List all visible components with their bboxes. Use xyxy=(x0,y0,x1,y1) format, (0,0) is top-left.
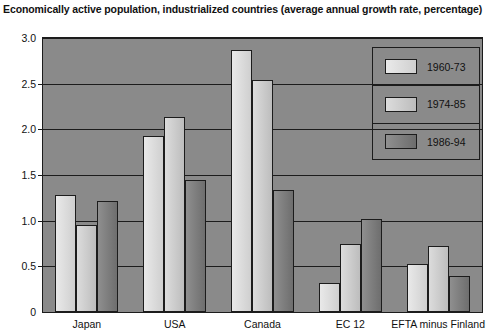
bar-efta-minus-finland-1986-94 xyxy=(449,276,470,312)
bar-group-canada xyxy=(219,38,307,312)
y-tick-label-2.0: 2.0 xyxy=(21,123,36,135)
bar-group-japan xyxy=(43,38,131,312)
y-tick-label-1.5: 1.5 xyxy=(21,169,36,181)
bar-ec-12-1974-85 xyxy=(340,244,361,313)
chart-title: Economically active population, industri… xyxy=(3,3,483,15)
x-tick-label-canada: Canada xyxy=(244,318,281,330)
x-tick-label-japan: Japan xyxy=(73,318,102,330)
legend-label-1960-73: 1960-73 xyxy=(427,61,466,73)
x-tick-label-ec-12: EC 12 xyxy=(336,318,365,330)
bar-usa-1960-73 xyxy=(143,136,164,312)
y-tick-label-3.0: 3.0 xyxy=(21,32,36,44)
legend-swatch-1974-85 xyxy=(385,97,417,112)
chart-legend: 1960-731974-851986-94 xyxy=(372,47,480,160)
chart-container: Economically active population, industri… xyxy=(0,0,487,332)
bar-ec-12-1986-94 xyxy=(361,219,382,312)
bar-group-usa xyxy=(131,38,219,312)
legend-swatch-1986-94 xyxy=(385,134,417,149)
bar-japan-1960-73 xyxy=(55,195,76,312)
bar-usa-1986-94 xyxy=(185,180,206,312)
x-axis: JapanUSACanadaEC 12EFTA minus Finland xyxy=(0,313,487,332)
bar-ec-12-1960-73 xyxy=(319,283,340,312)
bar-efta-minus-finland-1974-85 xyxy=(428,246,449,312)
x-tick-label-usa: USA xyxy=(164,318,186,330)
y-tick-label-1.0: 1.0 xyxy=(21,215,36,227)
legend-item-1960-73[interactable]: 1960-73 xyxy=(373,48,479,85)
y-tick-label-2.5: 2.5 xyxy=(21,78,36,90)
legend-swatch-1960-73 xyxy=(385,59,417,74)
bar-efta-minus-finland-1960-73 xyxy=(407,264,428,312)
legend-label-1986-94: 1986-94 xyxy=(427,136,466,148)
bar-japan-1986-94 xyxy=(97,201,118,312)
x-tick-label-efta-minus-finland: EFTA minus Finland xyxy=(391,318,485,330)
legend-item-1986-94[interactable]: 1986-94 xyxy=(373,123,479,160)
y-tick-label-0.5: 0.5 xyxy=(21,260,36,272)
y-axis: 00.51.01.52.02.53.0 xyxy=(0,0,42,332)
bar-canada-1986-94 xyxy=(273,190,294,312)
legend-item-1974-85[interactable]: 1974-85 xyxy=(373,85,479,122)
legend-label-1974-85: 1974-85 xyxy=(427,98,466,110)
bar-canada-1960-73 xyxy=(231,50,252,312)
bar-canada-1974-85 xyxy=(252,80,273,312)
bar-japan-1974-85 xyxy=(76,225,97,312)
bar-usa-1974-85 xyxy=(164,117,185,312)
